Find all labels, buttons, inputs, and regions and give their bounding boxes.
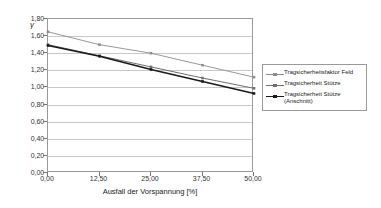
- legend-item-label: Tragsicherheit Stütze: [284, 80, 340, 87]
- x-axis-tick-mark: [99, 172, 100, 176]
- series-marker: [47, 44, 50, 47]
- series-marker: [201, 80, 204, 83]
- legend-marker-icon: [266, 70, 284, 79]
- x-axis-tick-label: 25,00: [141, 175, 159, 182]
- y-axis-tick-label: 0,60: [0, 117, 44, 124]
- legend-item-label: Tragsicherheit Stütze (Anschnitt): [284, 91, 340, 105]
- y-axis-tick-mark: [43, 138, 47, 139]
- legend-item: Tragsicherheit Stütze (Anschnitt): [266, 91, 363, 105]
- series-marker: [150, 52, 153, 55]
- plot-area: [47, 18, 253, 172]
- legend-marker-icon: [266, 92, 284, 101]
- y-axis-tick-label: 0,00: [0, 169, 44, 176]
- x-axis-tick-mark: [150, 172, 151, 176]
- y-axis-tick-mark: [43, 35, 47, 36]
- legend-item: Tragsicherheitsfaktor Feld: [266, 69, 363, 79]
- chart-container: γ 0,000,200,400,600,801,001,201,401,601,…: [0, 0, 381, 208]
- x-axis-tick-mark: [202, 172, 203, 176]
- series-marker: [47, 31, 50, 34]
- series-marker: [150, 66, 153, 69]
- legend-marker-icon: [266, 81, 284, 90]
- x-axis-label: Ausfall der Vorspannung [%]: [103, 187, 198, 196]
- series-marker: [150, 68, 153, 71]
- series-marker: [253, 76, 256, 79]
- y-axis-tick-mark: [43, 86, 47, 87]
- data-series-layer: [48, 19, 254, 173]
- series-marker: [98, 43, 101, 46]
- series-marker: [201, 64, 204, 67]
- y-axis-tick-label: 1,00: [0, 83, 44, 90]
- series-marker: [253, 92, 256, 95]
- series-marker: [201, 77, 204, 80]
- y-axis-tick-label: 1,40: [0, 49, 44, 56]
- series-marker: [98, 55, 101, 58]
- x-axis-tick-label: 0,00: [40, 175, 54, 182]
- y-axis-tick-mark: [43, 121, 47, 122]
- legend-item: Tragsicherheit Stütze: [266, 80, 363, 90]
- x-axis-tick-label: 37,50: [193, 175, 211, 182]
- y-axis-tick-mark: [43, 69, 47, 70]
- y-axis-tick-mark: [43, 52, 47, 53]
- legend: Tragsicherheitsfaktor FeldTragsicherheit…: [262, 64, 367, 111]
- x-axis-tick-mark: [47, 172, 48, 176]
- x-axis-tick-mark: [253, 172, 254, 176]
- y-axis-tick-label: 1,20: [0, 66, 44, 73]
- y-axis-tick-label: 0,80: [0, 100, 44, 107]
- y-axis-tick-label: 0,40: [0, 134, 44, 141]
- y-axis-tick-label: 1,60: [0, 32, 44, 39]
- y-axis-tick-mark: [43, 104, 47, 105]
- legend-item-label: Tragsicherheitsfaktor Feld: [284, 69, 353, 76]
- x-axis-tick-label: 50,00: [244, 175, 262, 182]
- x-axis-tick-label: 12,50: [90, 175, 108, 182]
- series-marker: [253, 87, 256, 90]
- y-axis-tick-mark: [43, 18, 47, 19]
- y-axis-tick-label: 1,80: [0, 15, 44, 22]
- y-axis-tick-label: 0,20: [0, 151, 44, 158]
- y-axis-tick-mark: [43, 155, 47, 156]
